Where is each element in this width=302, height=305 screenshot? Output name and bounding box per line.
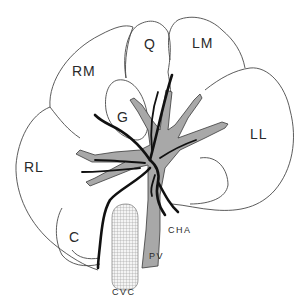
label-quadrate-lobe: Q	[144, 37, 156, 51]
label-common-hepatic-artery: CHA	[168, 226, 192, 235]
label-right-medial-lobe: RM	[72, 64, 96, 78]
caudal-vena-cava	[112, 204, 138, 290]
label-left-medial-lobe: LM	[192, 36, 213, 50]
artery-branch-rl2	[82, 168, 140, 172]
label-gallbladder: G	[117, 110, 129, 124]
label-caudate-lobe: C	[69, 230, 80, 244]
label-left-lateral-lobe: LL	[250, 127, 268, 141]
label-caudal-vena-cava: CVC	[112, 288, 136, 297]
label-right-lateral-lobe: RL	[24, 160, 44, 174]
label-portal-vein: PV	[149, 252, 164, 261]
lobe-outline-rl	[16, 107, 98, 270]
